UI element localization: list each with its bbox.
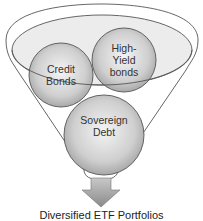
label-line: Bonds bbox=[40, 75, 82, 87]
label-line: bonds bbox=[103, 66, 145, 78]
label-high-yield-bonds: High- Yield bonds bbox=[103, 42, 145, 78]
label-line: High- bbox=[103, 42, 145, 54]
label-credit-bonds: Credit Bonds bbox=[40, 63, 82, 87]
down-arrow-icon bbox=[82, 178, 120, 207]
label-line: Debt bbox=[74, 126, 134, 138]
label-line: Sovereign bbox=[74, 114, 134, 126]
label-line: Yield bbox=[103, 54, 145, 66]
label-sovereign-debt: Sovereign Debt bbox=[74, 114, 134, 138]
funnel-diagram bbox=[0, 0, 203, 221]
output-caption: Diversified ETF Portfolios bbox=[0, 209, 203, 221]
label-line: Credit bbox=[40, 63, 82, 75]
